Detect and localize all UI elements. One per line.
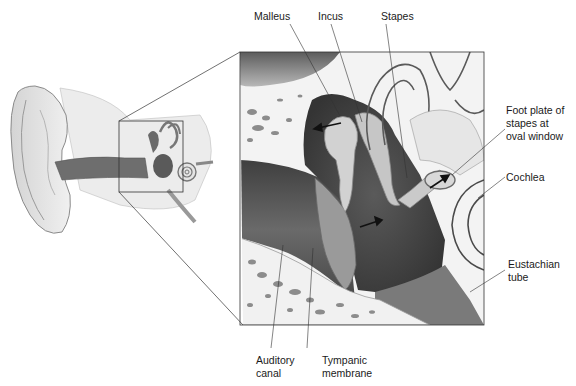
zoom-line-bottom bbox=[119, 192, 243, 325]
ear-diagram: Malleus Incus Stapes Foot plate of stape… bbox=[0, 0, 576, 386]
zoom-line-top bbox=[119, 52, 240, 121]
label-stapes: Stapes bbox=[381, 10, 414, 23]
label-auditory-canal: Auditory canal bbox=[256, 354, 295, 380]
ear-illustration bbox=[0, 0, 576, 386]
label-foot-plate-of-stapes: Foot plate of stapes at oval window bbox=[506, 104, 564, 143]
label-incus: Incus bbox=[318, 10, 343, 23]
label-cochlea: Cochlea bbox=[506, 171, 545, 184]
outer-ear-drawing bbox=[11, 86, 213, 233]
label-tympanic-membrane: Tympanic membrane bbox=[322, 354, 372, 380]
label-eustachian-tube: Eustachian tube bbox=[508, 258, 560, 284]
label-malleus: Malleus bbox=[254, 10, 290, 23]
middle-ear-enlargement bbox=[238, 50, 488, 330]
